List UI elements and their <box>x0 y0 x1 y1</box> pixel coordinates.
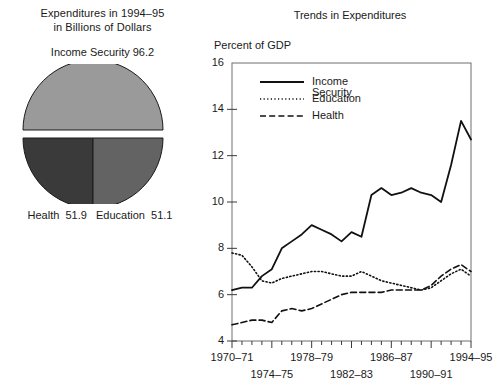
plot-frame <box>232 63 471 341</box>
y-tick-label-6: 6 <box>202 289 224 300</box>
x-tick-label-1994–95: 1994–95 <box>441 352 495 363</box>
y-tick-label-16: 16 <box>202 57 224 68</box>
pie-bottom-slice-labels: Health 51.9 Education 51.1 <box>0 208 200 222</box>
series-line-income-security[interactable] <box>232 121 471 290</box>
y-tick-label-14: 14 <box>202 103 224 114</box>
y-tick-label-12: 12 <box>202 150 224 161</box>
pie-top-slice-label: Income Security 96.2 <box>0 45 205 59</box>
legend-label-health: Health <box>312 110 344 121</box>
y-tick-label-10: 10 <box>202 196 224 207</box>
line-chart-panel: Trends in Expenditures Percent of GDP 46… <box>205 0 495 383</box>
pie-slice-education[interactable] <box>93 138 163 204</box>
pie-title-line1: Expenditures in 1994–95 <box>0 6 205 20</box>
pie-slice-health[interactable] <box>23 138 93 204</box>
x-tick-label-1970–71: 1970–71 <box>202 352 262 363</box>
y-tick-label-8: 8 <box>202 242 224 253</box>
y-tick-label-4: 4 <box>202 335 224 346</box>
x-tick-label-1978–79: 1978–79 <box>282 352 342 363</box>
pie-panel: Expenditures in 1994–95 in Billions of D… <box>0 0 205 383</box>
x-tick-label-1990–91: 1990–91 <box>401 369 461 380</box>
x-tick-label-1982–83: 1982–83 <box>322 369 382 380</box>
chart-plot-area <box>205 0 495 383</box>
pie-chart <box>20 64 166 204</box>
pie-svg <box>20 64 166 204</box>
x-tick-label-1986–87: 1986–87 <box>361 352 421 363</box>
pie-title: Expenditures in 1994–95 in Billions of D… <box>0 6 205 34</box>
pie-slice-income-security[interactable] <box>23 64 163 130</box>
legend-label-education: Education <box>312 93 361 104</box>
series-line-health[interactable] <box>232 265 471 325</box>
figure-root: Expenditures in 1994–95 in Billions of D… <box>0 0 495 383</box>
x-tick-label-1974–75: 1974–75 <box>242 369 302 380</box>
pie-title-line2: in Billions of Dollars <box>0 20 205 34</box>
